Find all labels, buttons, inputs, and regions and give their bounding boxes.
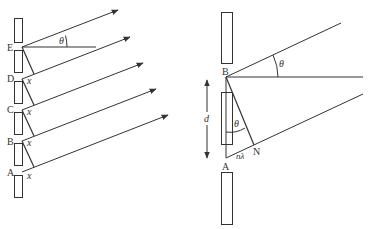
perpendicular-e	[22, 47, 34, 74]
grating-bar	[15, 113, 23, 135]
theta-label: θ	[59, 35, 64, 46]
x-label: x	[26, 170, 32, 181]
theta-label-inner: θ	[234, 118, 239, 129]
diffraction-diagram: E D C B A θ x x x x B A N θ	[0, 0, 369, 229]
label-b: B	[7, 136, 14, 147]
label-b-right: B	[222, 66, 229, 77]
label-a: A	[7, 167, 15, 178]
right-two-slit-diagram	[207, 13, 363, 225]
label-e: E	[7, 42, 13, 53]
slit-bar-middle	[222, 93, 233, 145]
ray-a	[22, 115, 168, 172]
x-label: x	[26, 75, 32, 86]
label-a-right: A	[222, 161, 230, 172]
label-d: D	[7, 73, 14, 84]
grating-bar	[15, 144, 23, 166]
x-label: x	[26, 106, 32, 117]
grating-bar	[15, 19, 23, 43]
d-label: d	[204, 113, 210, 124]
ray-e	[22, 10, 118, 47]
slit-bar-bottom	[222, 173, 233, 225]
ray-d	[22, 37, 130, 79]
label-n: N	[253, 146, 260, 157]
line-bn	[226, 77, 254, 145]
theta-label-top: θ	[279, 58, 284, 69]
label-c: C	[7, 104, 14, 115]
left-grating-diagram	[15, 10, 169, 198]
slit-bar-top	[222, 13, 233, 64]
right-labels: B A N θ θ d nλ	[204, 58, 284, 172]
grating-bar	[15, 176, 23, 198]
ray-b	[22, 89, 156, 141]
theta-arc	[66, 36, 68, 48]
n-lambda-label: nλ	[236, 151, 245, 161]
theta-arc-b	[273, 55, 278, 77]
grating-bar	[15, 82, 23, 104]
ray-c	[22, 63, 143, 110]
grating-bar	[15, 51, 23, 73]
x-label: x	[26, 137, 32, 148]
